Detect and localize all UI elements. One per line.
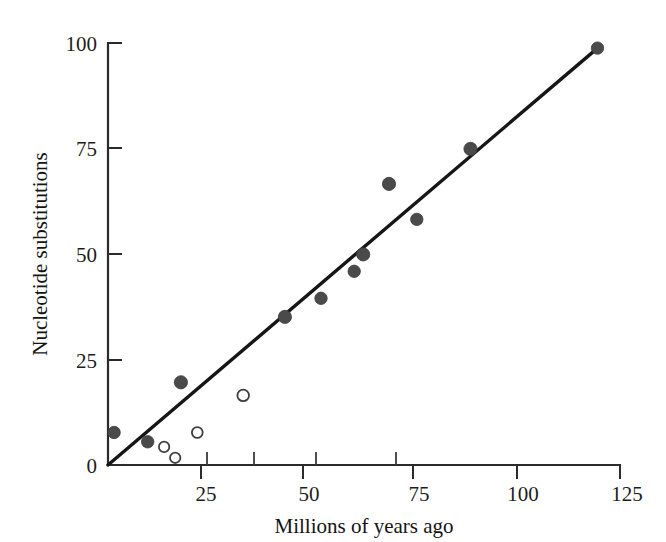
x-tick-label: 100 [507, 482, 539, 506]
y-tick-label: 25 [76, 349, 97, 373]
x-tick-label: 125 [611, 482, 643, 506]
data-point [315, 292, 327, 304]
chart-background [0, 0, 666, 542]
x-tick-label: 50 [299, 482, 320, 506]
data-point [464, 142, 477, 155]
x-tick-label: 75 [409, 482, 430, 506]
data-point [174, 376, 187, 389]
data-point [170, 453, 180, 463]
y-tick-label: 50 [76, 243, 97, 267]
y-tick-label: 75 [76, 137, 97, 161]
data-point [348, 265, 360, 277]
data-point [278, 310, 291, 323]
scatter-chart-figure: 100 75 50 25 0 25 50 75 100 125 Millions… [0, 0, 666, 542]
x-axis-title: Millions of years ago [274, 514, 453, 538]
y-tick-label: 0 [87, 454, 98, 478]
data-point [192, 427, 203, 438]
y-axis-title: Nucleotide substitutions [28, 152, 52, 356]
data-point [411, 213, 423, 225]
data-point [591, 42, 603, 54]
chart-canvas: 100 75 50 25 0 25 50 75 100 125 Millions… [0, 0, 666, 542]
data-point [237, 390, 249, 402]
data-point [108, 426, 120, 438]
x-tick-label: 25 [196, 482, 217, 506]
y-tick-label: 100 [66, 32, 98, 56]
data-point [382, 177, 395, 190]
data-point [142, 436, 154, 448]
data-point [357, 248, 370, 261]
data-point [159, 442, 169, 452]
